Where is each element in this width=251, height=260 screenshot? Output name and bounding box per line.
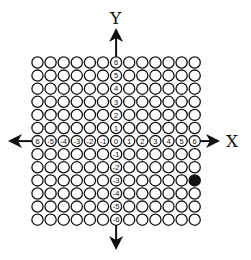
- grid-circle: [163, 149, 174, 160]
- grid-circle: [163, 83, 174, 94]
- grid-circle: [176, 57, 187, 68]
- grid-circle: [84, 149, 95, 160]
- grid-circle: [176, 162, 187, 173]
- grid-circle: [163, 162, 174, 173]
- grid-circle: [32, 83, 43, 94]
- grid-circle: [189, 149, 200, 160]
- grid-circle: [58, 188, 69, 199]
- grid-circle: [97, 122, 108, 133]
- grid-circle: [45, 149, 56, 160]
- grid-circle: [84, 214, 95, 225]
- grid-circle: [189, 96, 200, 107]
- grid-circle: [45, 162, 56, 173]
- grid-circle: [150, 162, 161, 173]
- y-axis-label: Y: [109, 8, 122, 28]
- grid-circle: [150, 83, 161, 94]
- grid-circle: [137, 96, 148, 107]
- grid-circle: [32, 201, 43, 212]
- x-tick-label: 4: [166, 137, 170, 146]
- grid-circle: [124, 201, 135, 212]
- grid-circle: [150, 96, 161, 107]
- grid-circle: [71, 122, 82, 133]
- grid-circle: [45, 83, 56, 94]
- grid-circle: [189, 109, 200, 120]
- grid-circle: [176, 70, 187, 81]
- x-axis-label: X: [226, 131, 239, 151]
- grid-circle: [71, 188, 82, 199]
- grid-circle: [97, 162, 108, 173]
- grid-circle: [124, 149, 135, 160]
- x-tick-label: 5: [180, 137, 184, 146]
- grid-circle: [58, 214, 69, 225]
- grid-circle: [97, 109, 108, 120]
- grid-circle: [124, 122, 135, 133]
- grid-circle: [58, 122, 69, 133]
- grid-circle: [137, 122, 148, 133]
- grid-circle: [32, 214, 43, 225]
- grid-circle: [97, 57, 108, 68]
- y-tick-label: -5: [113, 202, 120, 211]
- grid-circle: [97, 70, 108, 81]
- grid-circle: [163, 70, 174, 81]
- grid-circle: [45, 57, 56, 68]
- grid-circle: [176, 109, 187, 120]
- grid-circle: [45, 214, 56, 225]
- grid-circle: [84, 109, 95, 120]
- y-tick-label: -6: [113, 215, 120, 224]
- grid-circle: [45, 96, 56, 107]
- grid-circle: [150, 109, 161, 120]
- grid-circle: [124, 57, 135, 68]
- grid-circle: [189, 70, 200, 81]
- grid-circle: [84, 70, 95, 81]
- y-tick-label: 4: [114, 84, 118, 93]
- grid-circle: [45, 201, 56, 212]
- grid-circle: [45, 109, 56, 120]
- y-tick-label: -1: [113, 150, 120, 159]
- grid-circle: [84, 162, 95, 173]
- grid-circle: [71, 149, 82, 160]
- x-tick-label: 0: [114, 137, 118, 146]
- grid-circle: [124, 162, 135, 173]
- grid-circle: [32, 175, 43, 186]
- grid-circle: [137, 162, 148, 173]
- grid-circle: [163, 122, 174, 133]
- grid-circle: [176, 214, 187, 225]
- grid-circle: [45, 188, 56, 199]
- grid-circle: [32, 149, 43, 160]
- x-tick-label: -1: [100, 137, 107, 146]
- grid-circle: [163, 214, 174, 225]
- grid-circle: [58, 57, 69, 68]
- grid-circle: [137, 57, 148, 68]
- grid-circle: [150, 122, 161, 133]
- grid-circle: [97, 201, 108, 212]
- grid-circle: [97, 188, 108, 199]
- grid-circle: [189, 57, 200, 68]
- grid-circle: [97, 214, 108, 225]
- grid-circle: [137, 109, 148, 120]
- grid-circle: [163, 96, 174, 107]
- grid-circle: [84, 57, 95, 68]
- grid-circle: [137, 70, 148, 81]
- grid-circle: [58, 96, 69, 107]
- x-tick-label: 6: [193, 137, 197, 146]
- grid-circle: [71, 96, 82, 107]
- y-tick-label: 3: [114, 98, 118, 107]
- grid-circle: [71, 109, 82, 120]
- grid-circle: [58, 162, 69, 173]
- grid-circle: [150, 188, 161, 199]
- grid-circle: [84, 122, 95, 133]
- grid-circle: [189, 83, 200, 94]
- grid-circle: [189, 122, 200, 133]
- grid-circle: [84, 83, 95, 94]
- grid-circle: [58, 109, 69, 120]
- grid-circle: [58, 201, 69, 212]
- grid-circle: [97, 83, 108, 94]
- y-tick-label: 5: [114, 71, 118, 80]
- x-tick-label: 6: [35, 137, 39, 146]
- grid-circle: [150, 214, 161, 225]
- x-tick-label: -2: [87, 137, 94, 146]
- grid-circle: [84, 201, 95, 212]
- grid-circle: [84, 96, 95, 107]
- grid-circle: [32, 109, 43, 120]
- grid-circle: [71, 175, 82, 186]
